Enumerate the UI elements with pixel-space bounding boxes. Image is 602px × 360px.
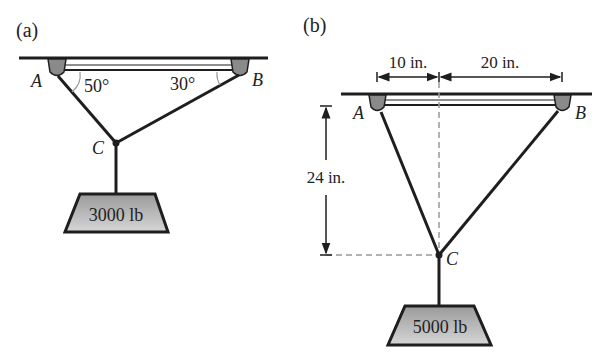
weight-b: 5000 lb [388,306,491,345]
point-a-label: A [352,103,365,123]
point-a-label: A [30,71,43,91]
cable-bc-b [439,111,558,255]
dimension-24in: 24 in. [307,106,346,255]
cable-ac-b [381,112,439,255]
point-b-label: B [252,70,263,90]
support-b-icon [231,59,249,76]
support-b-icon [554,95,571,111]
weight-b-label: 5000 lb [413,317,468,337]
joint-c-b [436,252,443,259]
point-c-label: C [92,138,105,158]
angle-arc-b [217,72,220,85]
angle-b-label: 30° [170,74,195,94]
panel-a-label: (a) [16,19,38,42]
dim-vertical-label: 24 in. [307,168,346,187]
angle-arc-a [72,72,80,92]
weight-a: 3000 lb [65,194,168,232]
dim-right-label: 20 in. [481,53,520,72]
dim-left-label: 10 in. [389,53,428,72]
weight-a-label: 3000 lb [89,205,144,225]
support-a-icon [48,59,66,76]
point-b-label: B [575,103,586,123]
joint-c-a [113,140,120,147]
angle-a-label: 50° [84,76,109,96]
panel-b: (b) 10 in. 20 in. [303,14,592,345]
dimension-20in: 20 in. [441,53,562,82]
support-a-icon [369,95,386,111]
dimension-10in: 10 in. [377,53,439,82]
point-c-label: C [446,249,459,269]
panel-a: (a) A B C 50° 30° 3000 lb [16,19,268,232]
panel-b-label: (b) [303,14,326,37]
